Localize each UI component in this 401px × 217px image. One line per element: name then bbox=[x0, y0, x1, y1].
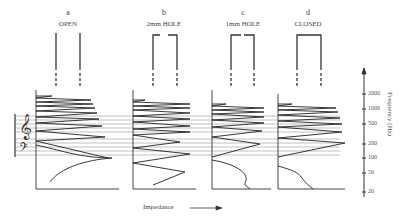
arrow-right-icon bbox=[216, 206, 222, 210]
frequency-axis-title: Frequency (Hz) bbox=[386, 92, 394, 136]
ytick-2000: 2000 bbox=[368, 90, 380, 96]
ytick-20: 20 bbox=[368, 188, 374, 194]
ytick-200: 200 bbox=[368, 140, 377, 146]
tube-closed-icon bbox=[297, 35, 321, 86]
treble-clef-icon: 𝄞 bbox=[19, 114, 32, 140]
ytick-1000: 1000 bbox=[368, 105, 380, 111]
arrow-up-icon bbox=[362, 68, 366, 74]
ytick-50: 50 bbox=[368, 169, 374, 175]
impedance-curve-d bbox=[278, 104, 345, 189]
impedance-label: Impedance bbox=[143, 203, 174, 211]
bass-clef-icon: 𝄢 bbox=[19, 140, 28, 156]
impedance-curve-c bbox=[212, 104, 264, 189]
impedance-curve-b bbox=[133, 100, 190, 185]
tube-open-icon bbox=[56, 33, 80, 86]
ytick-100: 100 bbox=[368, 154, 377, 160]
tube-2mm-hole-icon bbox=[153, 35, 177, 86]
tube-1mm-hole-icon bbox=[231, 35, 254, 86]
ytick-500: 500 bbox=[368, 120, 377, 126]
impedance-arrow bbox=[190, 206, 222, 210]
frequency-axis bbox=[362, 68, 366, 197]
diagram-canvas: 𝄞 𝄢 bbox=[0, 0, 401, 217]
